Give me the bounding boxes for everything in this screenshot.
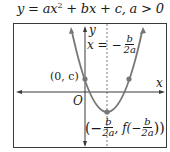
- y-intercept-label: (0, c): [50, 70, 79, 83]
- axis-of-symmetry-label: x = − b 2a: [87, 34, 136, 55]
- curve-left-arrow-icon: [69, 27, 74, 34]
- x-axis-right-arrow-icon: [159, 90, 165, 94]
- y-intercept-point: [82, 76, 87, 81]
- x-axis-label: x: [156, 76, 163, 90]
- x-axis-left-arrow-icon: [16, 90, 22, 94]
- curve-right-arrow-icon: [140, 27, 146, 34]
- symmetric-point: [126, 76, 131, 81]
- vertex-label: (− b 2a , f(− b 2a )): [85, 117, 165, 138]
- y-axis-up-arrow-icon: [83, 26, 87, 32]
- y-axis-down-arrow-icon: [83, 141, 87, 147]
- origin-label: O: [73, 94, 83, 108]
- vertex-point: [104, 109, 109, 114]
